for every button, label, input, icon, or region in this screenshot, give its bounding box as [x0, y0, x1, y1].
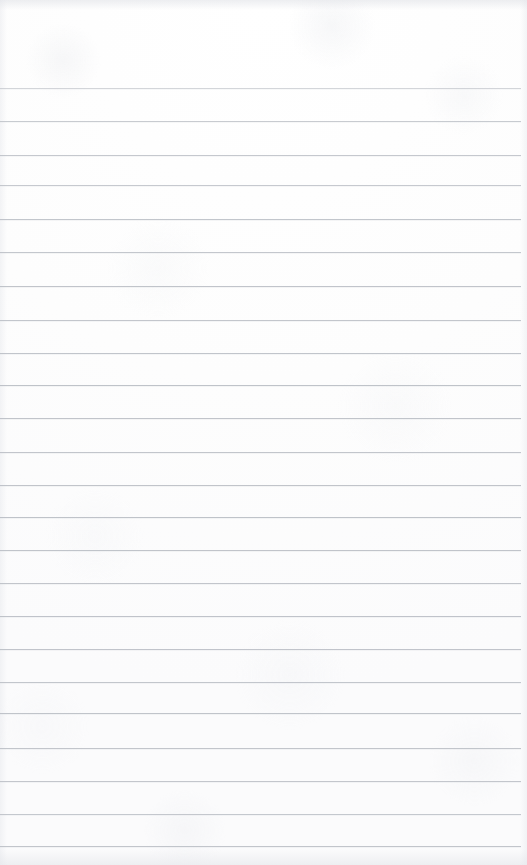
writing-line-row[interactable]	[0, 683, 527, 713]
notebook-page	[0, 0, 527, 865]
writing-line-row[interactable]	[0, 815, 527, 846]
writing-line-row[interactable]	[0, 321, 527, 353]
writing-line-row[interactable]	[0, 253, 527, 286]
writing-line-row[interactable]	[0, 419, 527, 452]
writing-line-row[interactable]	[0, 714, 527, 748]
writing-line-row[interactable]	[0, 156, 527, 185]
writing-line-row[interactable]	[0, 782, 527, 814]
writing-line-row[interactable]	[0, 354, 527, 385]
writing-line-row[interactable]	[0, 551, 527, 583]
writing-line-row[interactable]	[0, 220, 527, 252]
writing-line-row[interactable]	[0, 518, 527, 550]
writing-line-row[interactable]	[0, 386, 527, 418]
writing-line-row[interactable]	[0, 453, 527, 485]
writing-line-row[interactable]	[0, 486, 527, 517]
writing-line-row[interactable]	[0, 122, 527, 155]
writing-line-row[interactable]	[0, 617, 527, 649]
writing-line-row[interactable]	[0, 749, 527, 781]
writing-line-row[interactable]	[0, 287, 527, 320]
writing-line-row[interactable]	[0, 650, 527, 682]
writing-line-row[interactable]	[0, 584, 527, 616]
writing-line-row[interactable]	[0, 186, 527, 219]
writing-line-row[interactable]	[0, 847, 527, 865]
writing-line-row[interactable]	[0, 89, 527, 121]
